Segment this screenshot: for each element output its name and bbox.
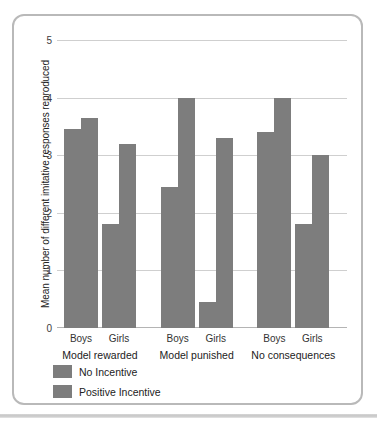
bar: [216, 138, 233, 328]
x-tick-label: Girls: [109, 333, 130, 344]
y-tick-label: 3: [36, 150, 52, 161]
gridline: [57, 40, 347, 41]
legend-item: Positive Incentive: [53, 383, 161, 400]
gridline: [57, 213, 347, 214]
x-tick-label: Boys: [263, 333, 285, 344]
bar: [178, 98, 195, 328]
legend-swatch: [53, 365, 72, 378]
y-tick-label: 5: [36, 35, 52, 46]
y-tick-label: 2: [36, 207, 52, 218]
x-group-label: Model rewarded: [62, 349, 137, 361]
y-tick-label: 0: [36, 323, 52, 334]
x-tick-label: Boys: [70, 333, 92, 344]
legend-label: Positive Incentive: [79, 386, 161, 398]
legend-swatch: [53, 385, 72, 398]
gridline: [57, 155, 347, 156]
x-tick-label: Girls: [302, 333, 323, 344]
bar: [312, 155, 329, 328]
y-tick-label: 1: [36, 265, 52, 276]
legend-item: No Incentive: [53, 363, 161, 380]
bar: [274, 98, 291, 328]
x-tick-label: Boys: [167, 333, 189, 344]
x-group-label: Model punished: [160, 349, 234, 361]
legend-label: No Incentive: [79, 366, 137, 378]
bar: [119, 144, 136, 328]
y-axis-label: Mean number of different imitative respo…: [40, 40, 51, 328]
bar: [102, 224, 119, 328]
chart-legend: No IncentivePositive Incentive: [53, 363, 161, 403]
x-group-label: No consequences: [251, 349, 335, 361]
bar: [64, 129, 81, 328]
gridline: [57, 98, 347, 99]
bottom-rule: [0, 414, 377, 418]
bar: [199, 302, 216, 328]
y-tick-label: 4: [36, 92, 52, 103]
bar: [81, 118, 98, 328]
plot-area: [57, 40, 347, 328]
bar: [257, 132, 274, 328]
figure-frame: Mean number of different imitative respo…: [12, 14, 363, 405]
bar: [161, 187, 178, 328]
y-axis-label-container: Mean number of different imitative respo…: [28, 40, 42, 328]
bar: [295, 224, 312, 328]
x-tick-label: Girls: [205, 333, 226, 344]
